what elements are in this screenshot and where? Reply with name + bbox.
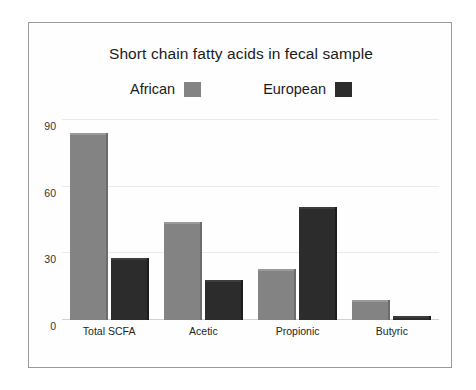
bar-top-highlight: [258, 269, 296, 271]
x-axis-label-propionic: Propionic: [251, 325, 345, 337]
x-axis-label-acetic: Acetic: [156, 325, 250, 337]
bar-top-highlight: [70, 133, 108, 135]
bar-side-shadow: [147, 258, 149, 320]
bar-side-shadow: [200, 222, 202, 320]
bar-african-total-scfa[interactable]: [70, 133, 108, 320]
legend-item-european[interactable]: European: [263, 81, 352, 97]
bar-top-highlight: [352, 300, 390, 302]
bar-group: Propionic: [251, 120, 345, 320]
legend-swatch-european: [335, 82, 352, 97]
legend-swatch-african: [184, 82, 201, 97]
bar-top-highlight: [205, 280, 243, 282]
bar-african-butyric[interactable]: [352, 300, 390, 320]
plot-area: 0306090 Total SCFAAceticPropionicButyric: [62, 120, 439, 320]
bar-side-shadow: [241, 280, 243, 320]
bar-side-shadow: [388, 300, 390, 320]
bar-top-highlight: [299, 207, 337, 209]
bar-top-highlight: [111, 258, 149, 260]
bar-african-propionic[interactable]: [258, 269, 296, 320]
x-axis-label-total-scfa: Total SCFA: [62, 325, 156, 337]
bar-african-acetic[interactable]: [164, 222, 202, 320]
legend-label-african: African: [130, 81, 175, 97]
figure: Short chain fatty acids in fecal sample …: [0, 0, 476, 390]
chart-legend: African European: [29, 81, 453, 97]
bar-european-total-scfa[interactable]: [111, 258, 149, 320]
chart-title: Short chain fatty acids in fecal sample: [29, 45, 453, 63]
bar-top-highlight: [393, 316, 431, 318]
bar-side-shadow: [106, 133, 108, 320]
bar-european-acetic[interactable]: [205, 280, 243, 320]
x-axis-label-butyric: Butyric: [345, 325, 439, 337]
bar-side-shadow: [429, 316, 431, 320]
bar-groups: Total SCFAAceticPropionicButyric: [62, 120, 439, 320]
legend-label-european: European: [263, 81, 326, 97]
bar-european-butyric[interactable]: [393, 316, 431, 320]
bar-group: Acetic: [156, 120, 250, 320]
bar-group: Total SCFA: [62, 120, 156, 320]
chart-frame: Short chain fatty acids in fecal sample …: [28, 22, 452, 368]
bar-side-shadow: [335, 207, 337, 320]
bar-top-highlight: [164, 222, 202, 224]
bar-european-propionic[interactable]: [299, 207, 337, 320]
bar-side-shadow: [294, 269, 296, 320]
legend-item-african[interactable]: African: [130, 81, 201, 97]
bar-group: Butyric: [345, 120, 439, 320]
